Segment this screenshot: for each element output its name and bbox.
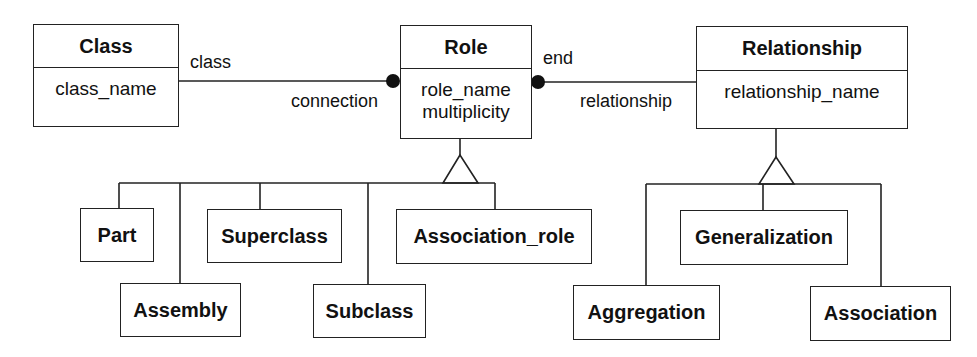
- end-multiplicity-dot-icon: [531, 75, 545, 89]
- class-end-label: class: [190, 52, 231, 73]
- class-box-title: Class: [34, 25, 178, 68]
- role-generalization-triangle-icon: [443, 155, 478, 183]
- role-box-attributes: role_name multiplicity: [401, 69, 531, 123]
- assembly-box[interactable]: Assembly: [120, 283, 241, 337]
- connection-multiplicity-dot-icon: [386, 74, 400, 88]
- attribute-relationship-name: relationship_name: [697, 81, 907, 103]
- superclass-box[interactable]: Superclass: [207, 209, 342, 263]
- relationship-end-label: relationship: [580, 91, 672, 112]
- role-box[interactable]: Role role_name multiplicity: [400, 25, 532, 139]
- class-box-attributes: class_name: [34, 68, 178, 100]
- relationship-box-title: Relationship: [697, 27, 907, 71]
- attribute-multiplicity: multiplicity: [401, 101, 531, 123]
- relationship-box-attributes: relationship_name: [697, 71, 907, 103]
- aggregation-box[interactable]: Aggregation: [573, 285, 720, 340]
- relationship-box[interactable]: Relationship relationship_name: [696, 26, 908, 129]
- class-box[interactable]: Class class_name: [33, 24, 179, 127]
- association-box[interactable]: Association: [810, 286, 951, 341]
- connection-end-label: connection: [291, 91, 378, 112]
- end-end-label: end: [543, 48, 573, 69]
- role-box-title: Role: [401, 26, 531, 69]
- association-role-box[interactable]: Association_role: [396, 209, 592, 264]
- generalization-box[interactable]: Generalization: [680, 210, 848, 265]
- attribute-role-name: role_name: [401, 79, 531, 101]
- part-box[interactable]: Part: [80, 208, 154, 262]
- relationship-generalization-triangle-icon: [759, 157, 794, 184]
- attribute-class-name: class_name: [34, 78, 178, 100]
- subclass-box[interactable]: Subclass: [313, 284, 426, 338]
